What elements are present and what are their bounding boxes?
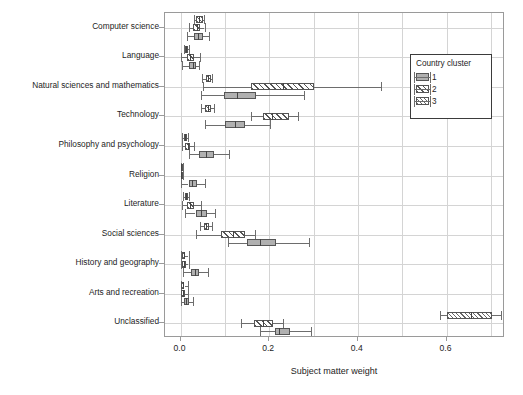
legend-whisker	[414, 89, 431, 90]
whisker-low	[260, 331, 275, 332]
median-line	[201, 210, 202, 217]
whisker-cap-high	[215, 209, 216, 218]
whisker-high	[273, 323, 284, 324]
legend-cap-right	[430, 96, 431, 107]
whisker-cap-high	[309, 238, 310, 247]
median-line	[195, 269, 196, 276]
x-axis-title: Subject matter weight	[164, 366, 504, 376]
whisker-cap-low	[196, 230, 197, 239]
gridline-horizontal	[165, 146, 503, 147]
whisker-cap-high	[311, 327, 312, 336]
whisker-cap-low	[260, 327, 261, 336]
y-axis-category-label: Computer science	[0, 22, 159, 31]
whisker-cap-low	[205, 120, 206, 129]
median-line	[186, 193, 187, 200]
whisker-cap-high	[212, 74, 213, 83]
whisker-high	[194, 205, 201, 206]
y-axis-category-label: History and geography	[0, 258, 159, 267]
box-iqr	[263, 113, 289, 120]
median-line	[235, 121, 236, 128]
whisker-high	[314, 87, 381, 88]
whisker-cap-low	[203, 82, 204, 91]
whisker-low	[189, 154, 200, 155]
whisker-cap-low	[189, 23, 190, 32]
legend-key-swatch	[416, 85, 429, 93]
y-axis-category-label: Religion	[0, 170, 159, 179]
legend-cap-right	[430, 84, 431, 95]
gridline-horizontal	[165, 176, 503, 177]
whisker-cap-high	[193, 297, 194, 306]
whisker-cap-high	[189, 192, 190, 201]
box-iqr	[224, 92, 256, 99]
x-axis-tick	[446, 337, 447, 341]
whisker-high	[289, 116, 298, 117]
whisker-high	[256, 95, 304, 96]
y-axis-category-label: Language	[0, 51, 159, 60]
whisker-cap-low	[185, 209, 186, 218]
whisker-high	[214, 154, 229, 155]
whisker-cap-low	[200, 222, 201, 231]
whisker-cap-high	[189, 260, 190, 269]
whisker-cap-low	[181, 179, 182, 188]
whisker-cap-high	[229, 150, 230, 159]
legend-items: 123	[416, 71, 486, 107]
whisker-cap-low	[201, 91, 202, 100]
whisker-low	[228, 243, 247, 244]
median-line	[188, 143, 189, 150]
x-axis-tick-label: 0.4	[337, 343, 377, 353]
legend-cap-right	[430, 72, 431, 83]
median-line	[263, 320, 264, 327]
whisker-low	[196, 235, 222, 236]
whisker-cap-high	[209, 32, 210, 41]
whisker-cap-high	[194, 142, 195, 151]
gridline-vertical	[402, 13, 403, 336]
legend: Country cluster 123	[410, 54, 492, 119]
x-axis-tick-label: 0.0	[160, 343, 200, 353]
whisker-cap-high	[188, 133, 189, 142]
gridline-vertical	[269, 13, 270, 336]
whisker-cap-high	[205, 23, 206, 32]
legend-cap-left	[414, 72, 415, 83]
whisker-cap-low	[251, 112, 252, 121]
whisker-high	[276, 243, 309, 244]
median-line	[272, 113, 273, 120]
y-axis-category-label: Philosophy and psychology	[0, 140, 159, 149]
median-line	[193, 62, 194, 69]
legend-item-label: 1	[432, 73, 437, 82]
whisker-cap-high	[201, 201, 202, 210]
legend-item[interactable]: 2	[416, 83, 486, 95]
legend-cap-left	[414, 84, 415, 95]
y-axis-category-label: Unclassified	[0, 317, 159, 326]
median-line	[279, 328, 280, 335]
median-line	[199, 16, 200, 23]
y-axis-labels: Computer scienceLanguageNatural sciences…	[0, 12, 159, 337]
y-axis-category-label: Arts and recreation	[0, 288, 159, 297]
legend-item[interactable]: 3	[416, 95, 486, 107]
whisker-low	[182, 66, 189, 67]
y-axis-category-label: Technology	[0, 110, 159, 119]
whisker-low	[183, 272, 191, 273]
whisker-low	[440, 315, 448, 316]
median-line	[471, 312, 472, 319]
y-axis-category-label: Natural sciences and mathematics	[0, 81, 159, 90]
whisker-high	[197, 184, 205, 185]
median-line	[197, 24, 198, 31]
legend-cap-left	[414, 96, 415, 107]
whisker-cap-low	[182, 61, 183, 70]
gridline-horizontal	[165, 205, 503, 206]
whisker-cap-high	[501, 311, 502, 320]
legend-title: Country cluster	[416, 59, 486, 68]
whisker-cap-low	[201, 104, 202, 113]
median-line	[198, 33, 199, 40]
whisker-low	[241, 323, 254, 324]
whisker-cap-high	[199, 61, 200, 70]
median-line	[233, 231, 234, 238]
gridline-horizontal	[165, 264, 503, 265]
median-line	[190, 202, 191, 209]
legend-item[interactable]: 1	[416, 71, 486, 83]
legend-item-label: 2	[432, 85, 437, 94]
whisker-low	[205, 125, 225, 126]
median-line	[190, 54, 191, 61]
legend-item-label: 3	[432, 97, 437, 106]
gridline-horizontal	[165, 28, 503, 29]
